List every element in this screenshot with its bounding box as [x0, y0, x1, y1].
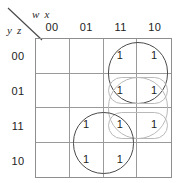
kmap-cell-r1-c2: 1: [104, 74, 138, 109]
column-header-1: 01: [69, 22, 103, 33]
kmap-cell-r3-c0: [36, 143, 70, 178]
kmap-cell-r0-c3: 1: [137, 39, 171, 74]
cell-value: 1: [117, 119, 123, 130]
kmap-cell-r2-c3: 1: [137, 108, 171, 143]
kmap-cell-r0-c0: [36, 39, 70, 74]
kmap-cell-r1-c3: 1: [137, 74, 171, 109]
cell-value: 1: [117, 85, 123, 96]
column-header-0: 00: [35, 22, 69, 33]
cell-value: 1: [83, 119, 89, 130]
row-header-1: 01: [3, 73, 33, 108]
kmap-cell-r2-c2: 1: [104, 108, 138, 143]
kmap-cell-r3-c1: 1: [70, 143, 104, 178]
column-header-3: 10: [138, 22, 172, 33]
cell-value: 1: [83, 154, 89, 165]
karnaugh-map-figure: w x y z 00 01 11 10 00 01 11 10 11111111…: [0, 0, 184, 183]
kmap-cell-r1-c0: [36, 74, 70, 109]
kmap-cell-r3-c2: 1: [104, 143, 138, 178]
cell-value: 1: [151, 50, 157, 61]
row-header-0: 00: [3, 38, 33, 73]
cell-value: 1: [117, 154, 123, 165]
kmap-grid: 111111111: [35, 38, 172, 178]
column-variables-label: w x: [32, 9, 51, 20]
column-header-2: 11: [104, 22, 138, 33]
row-header-2: 11: [3, 108, 33, 143]
kmap-cell-r3-c3: [137, 143, 171, 178]
kmap-cell-r0-c2: 1: [104, 39, 138, 74]
cell-value: 1: [117, 50, 123, 61]
kmap-cell-r0-c1: [70, 39, 104, 74]
row-variables-label: y z: [7, 25, 23, 36]
cell-value: 1: [151, 119, 157, 130]
kmap-cell-r2-c1: 1: [70, 108, 104, 143]
kmap-cell-r2-c0: [36, 108, 70, 143]
kmap-cell-r1-c1: [70, 74, 104, 109]
cell-value: 1: [151, 85, 157, 96]
row-header-3: 10: [3, 143, 33, 178]
